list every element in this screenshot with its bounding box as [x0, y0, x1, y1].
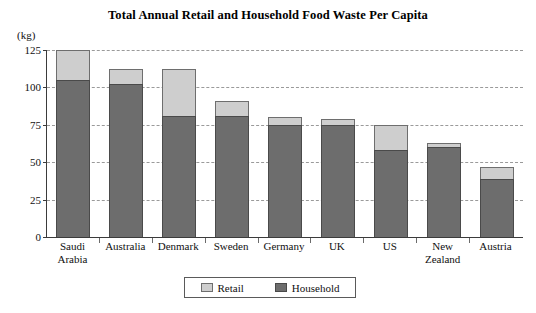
legend-item-household: Household — [275, 282, 340, 294]
bar-segment-household — [162, 116, 196, 237]
bar-stack — [268, 117, 302, 237]
bar-group — [162, 50, 196, 237]
bar-segment-retail — [215, 101, 249, 116]
bar-stack — [162, 69, 196, 237]
bar-stack — [321, 119, 355, 237]
chart-container: Total Annual Retail and Household Food W… — [0, 0, 536, 313]
x-axis-label: Germany — [258, 240, 311, 253]
bar-stack — [374, 125, 408, 237]
y-tick-label-75: 75 — [30, 119, 41, 130]
bar-segment-household — [480, 179, 514, 237]
x-axis-label-line: UK — [329, 240, 345, 252]
bar-group — [480, 50, 514, 237]
plot-area: 0255075100125 — [46, 50, 523, 238]
chart-title: Total Annual Retail and Household Food W… — [0, 8, 536, 23]
x-axis-label-line: Saudi — [60, 240, 85, 252]
x-axis-label-line: Zealand — [416, 253, 469, 266]
x-axis-label-line: Australia — [105, 240, 145, 252]
x-axis-label: Denmark — [152, 240, 205, 253]
bar-segment-household — [268, 125, 302, 237]
bar-stack — [480, 167, 514, 237]
bar-group — [109, 50, 143, 237]
x-axis-label: NewZealand — [416, 240, 469, 266]
x-axis-labels: SaudiArabiaAustraliaDenmarkSwedenGermany… — [46, 240, 522, 276]
x-axis-label: US — [363, 240, 416, 253]
bar-segment-retail — [480, 167, 514, 179]
x-axis-label: Australia — [99, 240, 152, 253]
bar-segment-retail — [162, 69, 196, 115]
bar-segment-retail — [109, 69, 143, 84]
legend-swatch-retail-icon — [201, 283, 213, 292]
bar-stack — [427, 143, 461, 237]
x-axis-label-line: US — [383, 240, 397, 252]
bar-segment-household — [215, 116, 249, 237]
x-axis-label: Austria — [469, 240, 522, 253]
bar-stack — [56, 50, 90, 237]
bar-segment-retail — [374, 125, 408, 150]
legend-label-retail: Retail — [218, 282, 244, 294]
bar-group — [268, 50, 302, 237]
bar-segment-retail — [268, 117, 302, 124]
bar-segment-household — [56, 80, 90, 237]
x-axis-label: Sweden — [205, 240, 258, 253]
legend-item-retail: Retail — [201, 282, 244, 294]
y-tick-label-50: 50 — [30, 157, 41, 168]
y-tick-label-100: 100 — [25, 82, 42, 93]
bar-group — [56, 50, 90, 237]
y-tick-label-0: 0 — [36, 232, 42, 243]
chart-legend: Retail Household — [184, 277, 356, 298]
x-axis-label-line: Arabia — [46, 253, 99, 266]
x-axis-label: UK — [310, 240, 363, 253]
x-axis-label-line: New — [432, 240, 453, 252]
bars-layer — [47, 50, 523, 237]
x-axis-label-line: Germany — [264, 240, 305, 252]
bar-group — [321, 50, 355, 237]
legend-swatch-household-icon — [275, 283, 287, 292]
bar-stack — [109, 69, 143, 237]
y-tick-mark-0 — [43, 237, 47, 238]
bar-segment-household — [427, 147, 461, 237]
bar-group — [427, 50, 461, 237]
x-axis-label-line: Denmark — [158, 240, 199, 252]
x-axis-label-line: Sweden — [214, 240, 249, 252]
x-axis-label: SaudiArabia — [46, 240, 99, 266]
y-tick-label-125: 125 — [25, 45, 42, 56]
bar-segment-household — [109, 84, 143, 237]
y-axis-unit-label: (kg) — [17, 29, 35, 41]
bar-group — [215, 50, 249, 237]
bar-stack — [215, 101, 249, 237]
bar-segment-retail — [56, 50, 90, 80]
bar-segment-household — [374, 150, 408, 237]
bar-segment-household — [321, 125, 355, 237]
legend-label-household: Household — [292, 282, 340, 294]
bar-group — [374, 50, 408, 237]
y-tick-label-25: 25 — [30, 194, 41, 205]
x-axis-label-line: Austria — [479, 240, 511, 252]
